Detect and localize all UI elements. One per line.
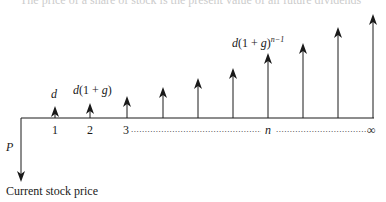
tick-3: 3	[123, 124, 129, 136]
label-P: P	[6, 141, 13, 153]
label-dn: d(1 + g)n−1	[232, 34, 284, 49]
caption-current-stock-price: Current stock price	[6, 184, 98, 198]
label-d: d	[51, 88, 57, 100]
tick-n: n	[265, 124, 271, 136]
tick-1: 1	[52, 124, 58, 136]
tick-2: 2	[87, 124, 93, 136]
cash-flow-diagram	[0, 0, 386, 202]
dots-right: ........................................…	[276, 123, 368, 135]
dots-left: ........................................…	[131, 123, 261, 135]
label-d1g: d(1 + g)	[73, 84, 112, 96]
tick-infinity: ∞	[367, 124, 376, 136]
dividend-arrows	[51, 14, 377, 118]
